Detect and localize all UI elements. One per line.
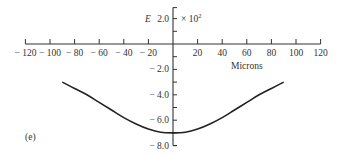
chart: − 120− 100− 80− 60− 40− 2020406080100120… [0, 0, 342, 156]
x-tick-label: − 20 [140, 48, 157, 58]
panel-label: (e) [25, 132, 36, 143]
x-tick-label: 120 [313, 48, 328, 58]
y-tick-label: 2.0 [157, 14, 169, 24]
y-tick-label: − 8.0 [149, 141, 169, 151]
axes [25, 8, 320, 146]
x-tick-label: 40 [217, 48, 227, 58]
multiplier-label: × 102 [181, 12, 201, 24]
y-tick-label: − 4.0 [149, 90, 169, 100]
x-tick-label: − 100 [39, 48, 61, 58]
x-tick-label: 80 [267, 48, 277, 58]
x-tick-label: − 60 [91, 48, 108, 58]
x-ticks: − 120− 100− 80− 60− 40− 2020406080100120 [14, 39, 328, 58]
x-axis-title: Microns [231, 61, 263, 71]
x-tick-label: 100 [289, 48, 304, 58]
y-tick-label: − 2.0 [149, 64, 169, 74]
x-tick-label: 20 [193, 48, 203, 58]
y-axis-name: E [144, 14, 151, 24]
x-tick-label: − 40 [115, 48, 132, 58]
x-tick-label: − 120 [14, 48, 36, 58]
y-tick-label: − 6.0 [149, 115, 169, 125]
x-tick-label: − 80 [66, 48, 83, 58]
x-tick-label: 60 [242, 48, 252, 58]
